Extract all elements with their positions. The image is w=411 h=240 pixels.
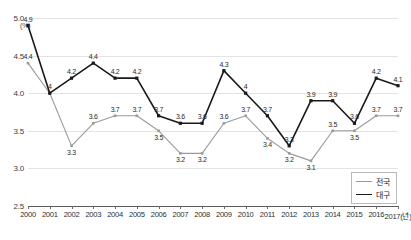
point-value-label: 3.5: [328, 121, 337, 128]
x-tick-label-2007: 2007: [172, 210, 188, 219]
x-tick-label-2002: 2002: [64, 210, 80, 219]
legend-item-대구[interactable]: 대구: [356, 189, 390, 200]
point-value-label: 3.9: [307, 91, 316, 98]
y-tick-label: 3.5: [13, 126, 24, 135]
point-value-label: 3.1: [307, 164, 316, 171]
x-tick-label-2010: 2010: [238, 210, 254, 219]
point-value-label: 4.4: [89, 53, 98, 60]
point-value-label: 3.6: [350, 113, 359, 120]
plot-area: 2.53.03.54.04.55.0 4.43.33.63.73.73.53.2…: [28, 18, 398, 206]
point-value-label: 4.2: [372, 68, 381, 75]
point-value-label: 4.2: [111, 68, 120, 75]
x-tick-label-2001: 2001: [42, 210, 58, 219]
point-value-label: 3.2: [176, 156, 185, 163]
y-tick-label: 4.0: [13, 89, 24, 98]
point-value-label: 3.2: [285, 156, 294, 163]
point-value-label: 3.9: [328, 91, 337, 98]
point-value-label: 4.1: [394, 76, 403, 83]
x-tick-mark: [224, 206, 225, 209]
point-value-label: 3.5: [350, 134, 359, 141]
point-value-label: 3.4: [263, 141, 272, 148]
x-tick-label-2008: 2008: [194, 210, 210, 219]
x-tick-label-2011: 2011: [260, 210, 275, 219]
x-tick-mark: [311, 206, 312, 209]
point-value-label: 3.7: [241, 106, 250, 113]
y-tick-label: 4.5: [13, 51, 24, 60]
x-tick-label-2000: 2000: [20, 210, 36, 219]
chart-legend[interactable]: 전국대구: [351, 172, 397, 204]
x-tick-mark: [93, 206, 94, 209]
x-tick-label-2013: 2013: [303, 210, 319, 219]
point-value-label: 4: [244, 83, 248, 90]
point-value-label: 3.6: [219, 113, 228, 120]
x-tick-label-2014: 2014: [325, 210, 341, 219]
legend-label: 대구: [376, 189, 390, 200]
x-tick-label-2006: 2006: [151, 210, 167, 219]
x-tick-mark: [267, 206, 268, 209]
point-value-label: 3.7: [111, 106, 120, 113]
x-tick-mark: [289, 206, 290, 209]
point-value-label: 3.7: [132, 106, 141, 113]
x-tick-label-2012: 2012: [281, 210, 297, 219]
x-tick-label-2017: 2017(년): [385, 210, 411, 221]
x-tick-mark: [115, 206, 116, 209]
y-tick-label: 3.0: [13, 164, 24, 173]
x-tick-label-2015: 2015: [347, 210, 363, 219]
point-value-label: 3.2: [198, 156, 207, 163]
point-value-label: 3.7: [394, 106, 403, 113]
legend-item-전국[interactable]: 전국: [356, 176, 390, 187]
x-tick-mark: [398, 206, 399, 209]
x-tick-mark: [246, 206, 247, 209]
point-value-label: 3.6: [176, 113, 185, 120]
x-tick-mark: [333, 206, 334, 209]
point-labels-group: 4.43.33.63.73.73.53.23.23.63.73.43.23.13…: [28, 18, 398, 206]
x-tick-label-2004: 2004: [107, 210, 123, 219]
x-tick-label-2009: 2009: [216, 210, 232, 219]
legend-line-swatch: [356, 181, 372, 182]
x-tick-mark: [72, 206, 73, 209]
x-tick-mark: [180, 206, 181, 209]
x-tick-label-2016: 2016: [368, 210, 384, 219]
point-value-label: 3.3: [67, 149, 76, 156]
point-value-label: 4.2: [132, 68, 141, 75]
x-tick-mark: [376, 206, 377, 209]
point-value-label: 3.3: [285, 136, 294, 143]
legend-line-swatch: [356, 194, 372, 195]
point-value-label: 3.7: [263, 106, 272, 113]
point-value-label: 4: [48, 83, 52, 90]
x-tick-label-2003: 2003: [85, 210, 101, 219]
x-tick-mark: [202, 206, 203, 209]
y-tick-label: 5.0: [13, 14, 24, 23]
gridline-2.5: 2.5: [28, 206, 398, 207]
point-value-label: 3.5: [154, 134, 163, 141]
x-tick-mark: [159, 206, 160, 209]
legend-label: 전국: [376, 176, 390, 187]
point-value-label: 4.2: [67, 68, 76, 75]
x-tick-mark: [137, 206, 138, 209]
x-tick-mark: [28, 206, 29, 209]
point-value-label: 3.7: [154, 106, 163, 113]
point-value-label: 4.3: [219, 61, 228, 68]
point-value-label: 4.4: [24, 53, 33, 60]
point-value-label: 3.6: [198, 113, 207, 120]
point-value-label: 3.6: [89, 113, 98, 120]
x-tick-label-2005: 2005: [129, 210, 145, 219]
point-value-label: 3.7: [372, 106, 381, 113]
x-tick-mark: [354, 206, 355, 209]
x-tick-mark: [50, 206, 51, 209]
